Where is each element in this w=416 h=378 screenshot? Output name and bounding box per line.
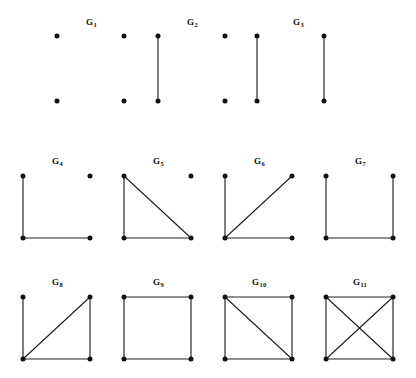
graph-label-subscript: 7	[363, 160, 366, 167]
graph-g9	[122, 295, 194, 362]
graph-label-g8: G8	[52, 278, 63, 287]
graph-vertex	[290, 357, 295, 362]
graph-label-subscript: 10	[260, 281, 267, 288]
graph-vertex	[391, 174, 396, 179]
graph-label-g11: G11	[353, 278, 367, 287]
graph-vertex	[223, 236, 228, 241]
graph-vertex	[290, 295, 295, 300]
graph-vertex	[223, 99, 228, 104]
graph-label-base: G	[353, 277, 360, 287]
graph-vertex	[223, 357, 228, 362]
graph-label-subscript: 3	[301, 21, 304, 28]
graph-label-g5: G5	[153, 157, 164, 166]
graph-label-g7: G7	[355, 157, 366, 166]
graph-vertex	[255, 34, 260, 39]
graph-vertex	[223, 174, 228, 179]
graph-vertex	[391, 236, 396, 241]
graph-label-base: G	[355, 156, 362, 166]
graph-label-subscript: 1	[94, 21, 97, 28]
graph-label-base: G	[187, 17, 194, 27]
graph-g7	[324, 174, 396, 241]
graph-figure: G1G2G3G4G5G6G7G8G9G10G11	[0, 0, 416, 378]
graph-vertex	[55, 34, 60, 39]
graph-g8	[21, 295, 93, 362]
graph-vertex	[88, 295, 93, 300]
graph-vertex	[88, 357, 93, 362]
graph-edge	[23, 297, 90, 359]
graph-label-subscript: 4	[60, 160, 63, 167]
graph-g1	[55, 34, 127, 104]
graph-g2	[156, 34, 228, 104]
graph-g4	[21, 174, 93, 241]
graph-vertex	[21, 236, 26, 241]
graph-label-base: G	[252, 277, 259, 287]
graph-edge	[124, 176, 191, 238]
graph-vertex	[55, 99, 60, 104]
graph-vertex	[122, 99, 127, 104]
graph-g11	[324, 295, 396, 362]
graph-vertex	[324, 357, 329, 362]
graph-vertex	[122, 34, 127, 39]
graph-vertex	[189, 295, 194, 300]
graph-vertex	[322, 99, 327, 104]
graph-label-base: G	[153, 156, 160, 166]
graph-vertex	[88, 174, 93, 179]
graph-vertex	[391, 357, 396, 362]
graph-label-g6: G6	[254, 157, 265, 166]
graph-vertex	[223, 34, 228, 39]
graph-vertex	[290, 174, 295, 179]
graph-label-base: G	[153, 277, 160, 287]
graph-vertex	[324, 174, 329, 179]
graph-label-g9: G9	[153, 278, 164, 287]
graph-vertex	[88, 236, 93, 241]
graph-vertex	[122, 236, 127, 241]
graph-vertex	[122, 295, 127, 300]
graph-vertex	[322, 34, 327, 39]
graph-label-subscript: 2	[195, 21, 198, 28]
graph-label-base: G	[254, 156, 261, 166]
graph-vertex	[122, 174, 127, 179]
graph-g5	[122, 174, 194, 241]
graph-label-base: G	[52, 277, 59, 287]
graph-label-subscript: 8	[60, 281, 63, 288]
graph-label-subscript: 11	[361, 281, 368, 288]
graph-vertex	[255, 99, 260, 104]
graph-vertex	[156, 34, 161, 39]
graph-label-g2: G2	[187, 18, 198, 27]
graph-vertex	[189, 174, 194, 179]
graph-vertex	[189, 357, 194, 362]
graph-g6	[223, 174, 295, 241]
graph-vertex	[21, 174, 26, 179]
graph-label-base: G	[293, 17, 300, 27]
graph-vertex	[290, 236, 295, 241]
graph-label-g3: G3	[293, 18, 304, 27]
graph-vertex	[324, 295, 329, 300]
graph-label-g4: G4	[52, 157, 63, 166]
graph-label-g10: G10	[252, 278, 266, 287]
graph-vertex	[21, 357, 26, 362]
graph-label-base: G	[52, 156, 59, 166]
graph-vertex	[156, 99, 161, 104]
graph-vertex	[223, 295, 228, 300]
graph-vertex	[324, 236, 329, 241]
graph-label-g1: G1	[86, 18, 97, 27]
graph-g10	[223, 295, 295, 362]
graph-g3	[255, 34, 327, 104]
graph-label-subscript: 6	[262, 160, 265, 167]
graph-edge	[225, 176, 292, 238]
graph-vertex	[391, 295, 396, 300]
graph-label-subscript: 9	[161, 281, 164, 288]
graph-label-subscript: 5	[161, 160, 164, 167]
graph-label-base: G	[86, 17, 93, 27]
graph-vertex	[122, 357, 127, 362]
graph-edge	[225, 297, 292, 359]
graph-vertex	[189, 236, 194, 241]
graph-canvas	[0, 0, 416, 378]
graph-vertex	[21, 295, 26, 300]
